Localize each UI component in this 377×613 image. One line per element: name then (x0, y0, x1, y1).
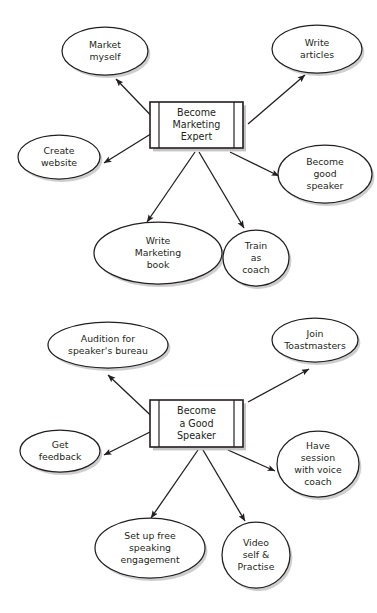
node-label-text: Writearticles (300, 37, 334, 60)
edge-line (147, 152, 195, 222)
edge-hub2-to-join-toastmasters[interactable] (248, 369, 309, 402)
edge-line (248, 75, 305, 124)
edge-line (199, 152, 244, 228)
edge-line (248, 369, 309, 402)
edge-line (151, 450, 198, 518)
edge-hub2-to-set-up-free-speaking[interactable] (151, 450, 198, 518)
node-label-text: Createwebsite (41, 145, 77, 168)
edge-hub1-to-write-articles[interactable] (248, 75, 305, 124)
edge-hub2-to-video-self[interactable] (203, 450, 245, 521)
edge-hub1-to-write-marketing-book[interactable] (147, 152, 195, 222)
node-label-text: Marketmyself (89, 39, 121, 62)
edge-hub2-to-have-session[interactable] (228, 450, 275, 471)
edge-hub1-to-become-good-speaker[interactable] (230, 152, 279, 176)
node-label-text: Becomea GoodSpeaker (177, 405, 216, 440)
edge-line (230, 152, 279, 176)
edge-line (228, 450, 275, 471)
mind-map-svg: MarketmyselfWritearticlesCreatewebsiteBe… (0, 0, 377, 613)
edge-line (203, 450, 245, 521)
edge-hub1-to-train-as-coach[interactable] (199, 152, 244, 228)
diagram-canvas: MarketmyselfWritearticlesCreatewebsiteBe… (0, 0, 377, 613)
